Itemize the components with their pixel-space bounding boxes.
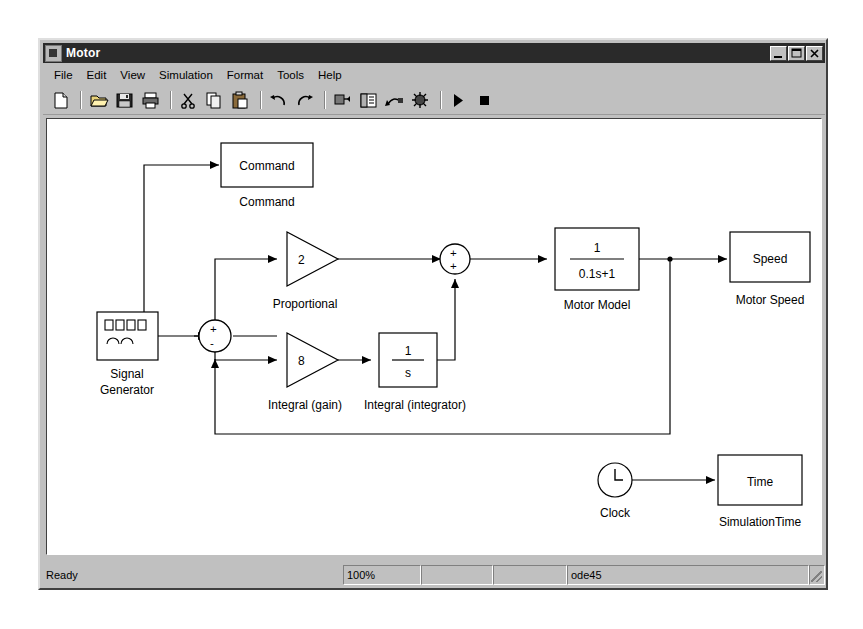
block-sum-2[interactable]: + + [440, 244, 470, 274]
model-canvas[interactable]: Signal Generator + - Command Command [46, 118, 822, 555]
block-denominator-integrator: s [405, 366, 411, 380]
maximize-button[interactable] [788, 46, 805, 61]
toolbar-separator-2 [170, 91, 172, 109]
block-label-integrator: Integral (integrator) [364, 398, 466, 412]
menu-item-simulation[interactable]: Simulation [152, 68, 220, 82]
block-signal-generator[interactable]: Signal Generator [97, 312, 158, 397]
block-value-proportional: 2 [298, 253, 305, 267]
resize-grip[interactable] [809, 565, 825, 585]
toolbar-separator-5 [440, 91, 442, 109]
simulink-model-icon [45, 45, 62, 62]
close-button[interactable] [806, 46, 823, 61]
status-pane-b [493, 565, 567, 585]
block-label-proportional: Proportional [273, 297, 338, 311]
screenshot-root: Motor File Edit View Simulation Format T… [0, 0, 863, 629]
library-icon [333, 91, 353, 110]
start-simulation-button[interactable] [447, 89, 471, 112]
copy-icon [205, 91, 225, 110]
floppy-disk-icon [115, 91, 135, 110]
undo-arrow-icon [269, 91, 289, 110]
model-explorer-button[interactable] [357, 89, 381, 112]
print-button[interactable] [139, 89, 163, 112]
stop-simulation-button[interactable] [473, 89, 497, 112]
block-simulation-time[interactable]: Time SimulationTime [718, 455, 802, 529]
block-label-motor-speed: Motor Speed [736, 293, 805, 307]
block-label-motor-model: Motor Model [564, 298, 631, 312]
block-label-clock: Clock [600, 506, 631, 520]
wire-integrator-to-sum2 [437, 279, 455, 360]
scissors-icon [179, 91, 199, 110]
clipboard-icon [231, 91, 251, 110]
block-integral-gain[interactable]: 8 Integral (gain) [268, 333, 342, 412]
title-bar[interactable]: Motor [43, 43, 825, 63]
block-command[interactable]: Command Command [221, 143, 313, 209]
block-label-simulation-time: SimulationTime [719, 515, 802, 529]
play-triangle-icon [449, 91, 469, 110]
status-bar: Ready 100% ode45 [43, 565, 825, 585]
sum1-plus-sign: + [210, 323, 217, 335]
new-document-icon [51, 91, 71, 110]
toolbar-separator-4 [324, 91, 326, 109]
block-label-signal-generator-line1: Signal [110, 367, 143, 381]
sum2-plus-sign-1: + [450, 247, 457, 259]
open-folder-icon [89, 91, 109, 110]
status-solver-name[interactable]: ode45 [567, 565, 809, 585]
block-integrator[interactable]: 1 s Integral (integrator) [364, 333, 466, 412]
menu-item-view[interactable]: View [113, 68, 152, 82]
block-text-simulation-time: Time [747, 475, 774, 489]
stop-square-icon [475, 91, 495, 110]
block-diagram[interactable]: Signal Generator + - Command Command [47, 119, 822, 555]
cut-button[interactable] [177, 89, 201, 112]
status-ready-text: Ready [43, 565, 343, 585]
redo-arrow-icon [295, 91, 315, 110]
block-numerator-motor-model: 1 [594, 241, 601, 255]
undo-button[interactable] [267, 89, 291, 112]
block-label-command: Command [239, 195, 294, 209]
menu-item-tools[interactable]: Tools [270, 68, 311, 82]
new-model-button[interactable] [49, 89, 73, 112]
menu-item-edit[interactable]: Edit [80, 68, 114, 82]
block-label-integral-gain: Integral (gain) [268, 398, 342, 412]
menu-bar: File Edit View Simulation Format Tools H… [43, 65, 825, 84]
status-zoom-level[interactable]: 100% [343, 565, 421, 585]
block-denominator-motor-model: 0.1s+1 [579, 267, 616, 281]
toolbar-separator-1 [80, 91, 82, 109]
update-diagram-button[interactable] [383, 89, 407, 112]
library-browser-button[interactable] [331, 89, 355, 112]
redo-button[interactable] [293, 89, 317, 112]
explorer-icon [359, 91, 379, 110]
debug-icon [411, 91, 431, 110]
block-text-command: Command [239, 159, 294, 173]
block-clock[interactable]: Clock [598, 463, 632, 520]
wire-siggen-to-command [144, 165, 219, 336]
toolbar-separator-3 [260, 91, 262, 109]
menu-item-format[interactable]: Format [220, 68, 270, 82]
block-sum-1[interactable]: + - [199, 320, 231, 352]
minimize-button[interactable] [770, 46, 787, 61]
debug-button[interactable] [409, 89, 433, 112]
sum1-minus-sign: - [210, 337, 214, 349]
menu-item-help[interactable]: Help [311, 68, 349, 82]
block-label-signal-generator-line2: Generator [100, 383, 154, 397]
menu-item-file[interactable]: File [47, 68, 80, 82]
block-motor-model[interactable]: 1 0.1s+1 Motor Model [555, 228, 639, 312]
sum2-plus-sign-2: + [450, 260, 457, 272]
status-pane-a [421, 565, 493, 585]
simulink-model-window: Motor File Edit View Simulation Format T… [38, 38, 828, 590]
printer-icon [141, 91, 161, 110]
open-model-button[interactable] [87, 89, 111, 112]
paste-button[interactable] [229, 89, 253, 112]
block-proportional[interactable]: 2 Proportional [273, 232, 338, 311]
block-numerator-integrator: 1 [405, 344, 412, 358]
copy-button[interactable] [203, 89, 227, 112]
block-motor-speed[interactable]: Speed Motor Speed [730, 232, 810, 307]
window-title: Motor [66, 46, 100, 60]
toolbar [43, 86, 825, 115]
block-text-motor-speed: Speed [753, 252, 788, 266]
block-value-integral-gain: 8 [298, 354, 305, 368]
save-model-button[interactable] [113, 89, 137, 112]
update-diagram-icon [385, 91, 405, 110]
